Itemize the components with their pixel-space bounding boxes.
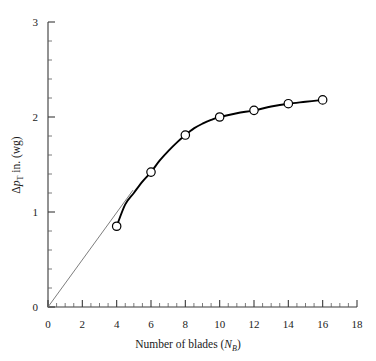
axis-lines [48,22,357,307]
x-tick-label: 16 [317,318,329,330]
y-tick-label: 3 [33,16,39,28]
tangent-line-segment [48,190,133,307]
x-tick-label: 6 [148,318,154,330]
data-point-marker [181,131,189,139]
x-tick-label: 14 [283,318,295,330]
data-point-marker [284,100,292,108]
axes-group [48,22,357,307]
data-point-marker [250,106,258,114]
data-point-marker [112,222,120,230]
axis-tick-labels-group: 0246810121416180123 [33,16,364,330]
y-tick-label: 2 [33,111,39,123]
x-tick-label: 2 [80,318,86,330]
tangent-line [48,190,133,307]
x-tick-label: 4 [114,318,120,330]
x-tick-label: 18 [352,318,364,330]
x-tick-label: 0 [45,318,51,330]
data-point-marker [147,168,155,176]
chart-plot-area: 0246810121416180123 Number of blades (NB… [0,0,376,361]
chart-figure: 0246810121416180123 Number of blades (NB… [0,0,376,361]
x-tick-label: 12 [249,318,260,330]
y-axis-title: ΔpT in. (wg) [10,136,25,194]
data-markers-group [112,96,326,231]
y-tick-label: 1 [33,206,39,218]
y-tick-label: 0 [33,301,39,313]
data-point-marker [215,113,223,121]
x-tick-label: 8 [183,318,189,330]
x-axis-title: Number of blades (NB) [135,338,241,353]
data-point-marker [318,96,326,104]
axis-ticks-group [48,22,357,307]
x-tick-label: 10 [214,318,226,330]
